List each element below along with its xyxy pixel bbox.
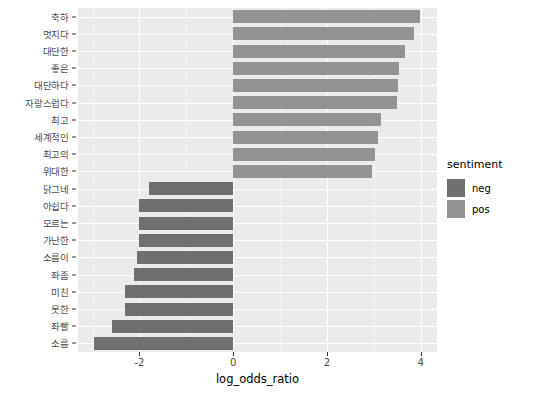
y-tick-mark	[72, 51, 76, 52]
bar	[233, 10, 420, 23]
y-tick-label: 소름이	[43, 250, 69, 264]
y-tick-mark	[72, 33, 76, 34]
x-tick-label: 0	[230, 357, 236, 368]
y-tick-label: 위대한	[43, 164, 69, 178]
y-tick-mark	[72, 188, 76, 189]
y-tick-label: 아쉽다	[43, 199, 69, 213]
y-tick-label: 좋은	[51, 61, 69, 75]
y-tick-mark	[72, 309, 76, 310]
legend-title: sentiment	[447, 158, 543, 171]
y-axis: 축하멋지다대단한좋은대단하다자랑스럽다최고세계적인최고의위대한닭그네아쉽다모르는…	[0, 8, 78, 352]
y-tick-mark	[72, 205, 76, 206]
y-tick-mark	[72, 102, 76, 103]
gridline-major	[327, 8, 328, 352]
bar	[233, 62, 399, 75]
y-tick-mark	[72, 85, 76, 86]
x-tick-mark	[139, 352, 140, 356]
legend-swatch	[447, 200, 465, 218]
y-tick-mark	[72, 154, 76, 155]
gridline-horizontal	[78, 206, 437, 207]
gridline-minor	[93, 8, 94, 352]
gridline-horizontal	[78, 257, 437, 258]
y-tick-label: 최고	[51, 113, 69, 127]
gridline-horizontal	[78, 223, 437, 224]
bar	[125, 285, 233, 298]
bar	[233, 27, 414, 40]
bar	[139, 217, 233, 230]
y-tick-mark	[72, 137, 76, 138]
legend-label: pos	[472, 204, 490, 215]
chart-figure: 축하멋지다대단한좋은대단하다자랑스럽다최고세계적인최고의위대한닭그네아쉽다모르는…	[0, 0, 548, 407]
y-tick-mark	[72, 16, 76, 17]
bar	[233, 148, 375, 161]
y-tick-label: 세계적인	[34, 130, 69, 144]
legend-item: neg	[447, 178, 543, 198]
y-tick-label: 미친	[51, 285, 69, 299]
gridline-major	[139, 8, 140, 352]
y-tick-label: 좌빨	[51, 319, 69, 333]
y-tick-mark	[72, 326, 76, 327]
gridline-minor	[280, 8, 281, 352]
bar	[233, 131, 378, 144]
bar	[139, 234, 234, 247]
x-tick-mark	[327, 352, 328, 356]
y-tick-label: 대단하다	[34, 78, 69, 92]
gridline-major	[421, 8, 422, 352]
y-tick-label: 모르는	[43, 216, 69, 230]
gridline-minor	[186, 8, 187, 352]
legend-label: neg	[472, 183, 491, 194]
legend-items: negpos	[447, 178, 543, 219]
y-tick-mark	[72, 223, 76, 224]
y-tick-mark	[72, 343, 76, 344]
bar	[94, 337, 234, 350]
y-tick-label: 가난한	[43, 233, 69, 247]
gridline-horizontal	[78, 240, 437, 241]
y-tick-mark	[72, 240, 76, 241]
gridline-horizontal	[78, 275, 437, 276]
x-tick-label: 2	[324, 357, 330, 368]
bar	[134, 268, 233, 281]
bar	[125, 303, 233, 316]
y-tick-label: 대단한	[43, 44, 69, 58]
gridline-major	[233, 8, 234, 352]
bar	[233, 165, 372, 178]
x-tick-label: 4	[417, 357, 423, 368]
y-tick-label: 좌좀	[51, 268, 69, 282]
y-tick-label: 자랑스럽다	[25, 96, 69, 110]
x-tick-mark	[233, 352, 234, 356]
y-tick-mark	[72, 171, 76, 172]
x-tick-mark	[421, 352, 422, 356]
x-axis: -2024	[78, 352, 437, 374]
x-axis-title: log_odds_ratio	[78, 372, 437, 386]
legend-item: pos	[447, 199, 543, 219]
bar	[149, 182, 233, 195]
y-tick-mark	[72, 291, 76, 292]
y-tick-label: 최고의	[43, 147, 69, 161]
bar	[233, 79, 398, 92]
y-tick-label: 닭그네	[43, 182, 69, 196]
bar	[233, 45, 405, 58]
y-tick-mark	[72, 119, 76, 120]
y-tick-mark	[72, 257, 76, 258]
y-tick-mark	[72, 68, 76, 69]
gridline-minor	[374, 8, 375, 352]
plot-panel	[78, 8, 437, 352]
legend-swatch	[447, 179, 465, 197]
bar	[137, 251, 234, 264]
y-tick-label: 축하	[51, 10, 69, 24]
y-tick-label: 소름	[51, 336, 69, 350]
bar	[139, 199, 233, 212]
y-tick-mark	[72, 274, 76, 275]
y-tick-label: 멋지다	[43, 27, 69, 41]
y-tick-label: 못한	[51, 302, 69, 316]
bar	[233, 113, 381, 126]
bar	[233, 96, 397, 109]
x-tick-label: -2	[134, 357, 144, 368]
gridline-horizontal	[78, 189, 437, 190]
legend: sentiment negpos	[447, 158, 543, 220]
bar	[112, 320, 233, 333]
